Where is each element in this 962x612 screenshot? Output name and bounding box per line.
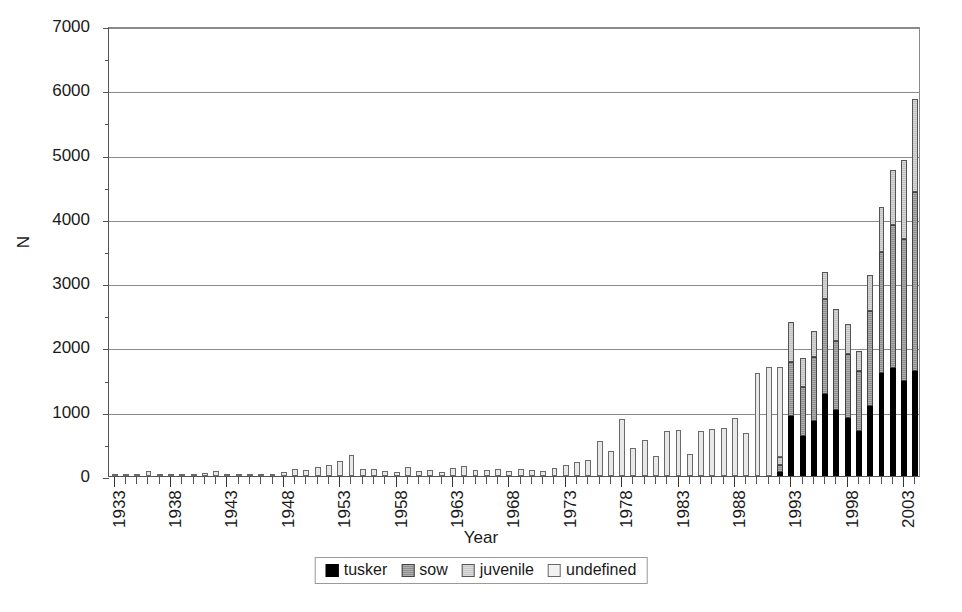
x-axis-tick-label: 1953 — [335, 490, 355, 528]
x-axis-tick — [193, 477, 194, 484]
bar — [585, 460, 591, 476]
x-axis-tick — [125, 477, 126, 484]
bar-segment-undefined — [608, 451, 614, 476]
bar-segment-juvenile — [845, 324, 851, 354]
x-axis-tick — [159, 477, 160, 484]
bar-segment-undefined — [315, 467, 321, 476]
x-axis-tick — [858, 477, 859, 484]
x-axis-tick-label: 1978 — [617, 490, 637, 528]
bar — [653, 456, 659, 476]
x-axis-tick — [587, 477, 588, 484]
x-axis-tick — [384, 477, 385, 484]
bar — [484, 470, 490, 476]
bar — [416, 471, 422, 476]
legend-swatch-undefined-icon — [548, 564, 561, 577]
x-axis-tick-label: 1933 — [110, 490, 130, 528]
x-axis-tick — [644, 477, 645, 484]
bar — [518, 469, 524, 476]
bar-segment-undefined — [360, 469, 366, 476]
bar-segment-undefined — [766, 367, 772, 476]
bar-segment-tusker — [800, 436, 806, 477]
bar-segment-undefined — [642, 440, 648, 476]
chart-figure: N 01000200030004000500060007000 19331938… — [0, 0, 962, 612]
x-axis-tick — [835, 477, 836, 484]
bar-segment-undefined — [179, 474, 185, 476]
x-axis-tick — [317, 477, 318, 484]
x-axis-tick — [350, 477, 351, 484]
legend-label: undefined — [566, 561, 636, 579]
y-axis-tick-label: 5000 — [52, 146, 90, 166]
bar-segment-undefined — [777, 367, 783, 457]
y-axis-tick-label: 2000 — [52, 338, 90, 358]
bar-segment-juvenile — [822, 272, 828, 299]
y-axis-tick-label: 1000 — [52, 403, 90, 423]
bar-segment-undefined — [157, 474, 163, 476]
bar-segment-sow — [833, 341, 839, 410]
bar-segment-juvenile — [901, 160, 907, 239]
x-axis-tick — [802, 477, 803, 484]
bar-segment-undefined — [292, 469, 298, 476]
bar-segment-undefined — [337, 461, 343, 476]
bar-segment-undefined — [236, 474, 242, 476]
bar — [292, 469, 298, 476]
bar-segment-undefined — [303, 470, 309, 476]
x-axis-tick — [147, 477, 148, 484]
bar — [879, 207, 885, 476]
bar — [258, 475, 264, 476]
bar — [134, 474, 140, 476]
bar-segment-juvenile — [856, 351, 862, 371]
x-axis-tick-label: 1988 — [730, 490, 750, 528]
bar — [179, 474, 185, 476]
bar — [270, 475, 276, 476]
x-axis-tick — [328, 477, 329, 484]
bar-segment-sow — [867, 311, 873, 406]
legend-item-juvenile: juvenile — [462, 561, 534, 579]
bar-segment-undefined — [224, 474, 230, 476]
bar-segment-undefined — [439, 472, 445, 476]
bar-segment-undefined — [473, 470, 479, 476]
bar — [664, 431, 670, 476]
bar-segment-undefined — [585, 460, 591, 476]
x-axis-tick — [790, 477, 791, 487]
bar-segment-undefined — [484, 470, 490, 476]
x-axis-tick-label: 1998 — [843, 490, 863, 528]
bar-segment-undefined — [518, 469, 524, 476]
bar — [247, 475, 253, 476]
bar-segment-undefined — [495, 469, 501, 476]
bar — [146, 471, 152, 476]
x-axis-tick — [756, 477, 757, 484]
bar-segment-undefined — [146, 471, 152, 476]
bar-segment-tusker — [822, 394, 828, 476]
bar-segment-undefined — [123, 474, 129, 476]
bar-segment-undefined — [461, 466, 467, 476]
bar-segment-undefined — [506, 471, 512, 476]
bar-segment-tusker — [845, 418, 851, 476]
bar-segment-undefined — [630, 448, 636, 476]
bar-segment-juvenile — [912, 99, 918, 192]
bar — [811, 331, 817, 476]
bar — [732, 418, 738, 476]
bar — [123, 475, 129, 476]
bar-series-container — [109, 28, 919, 476]
x-axis-tick — [565, 477, 566, 487]
bar-segment-undefined — [213, 471, 219, 476]
bar — [168, 475, 174, 476]
x-axis-tick — [723, 477, 724, 484]
bar-segment-juvenile — [800, 358, 806, 386]
x-axis-tick — [553, 477, 554, 484]
bar — [833, 309, 839, 476]
x-axis-tick-label: 1958 — [392, 490, 412, 528]
x-axis-tick — [779, 477, 780, 484]
x-axis-tick — [881, 477, 882, 484]
x-axis-tick — [621, 477, 622, 487]
bar-segment-tusker — [867, 406, 873, 476]
bar — [112, 475, 118, 476]
bar-segment-tusker — [788, 416, 794, 476]
x-axis-tick — [745, 477, 746, 484]
x-axis-tick — [294, 477, 295, 484]
bar-segment-undefined — [619, 419, 625, 476]
bar-segment-undefined — [676, 430, 682, 476]
bar — [698, 431, 704, 476]
y-axis-tick-label: 3000 — [52, 274, 90, 294]
bar — [743, 433, 749, 476]
